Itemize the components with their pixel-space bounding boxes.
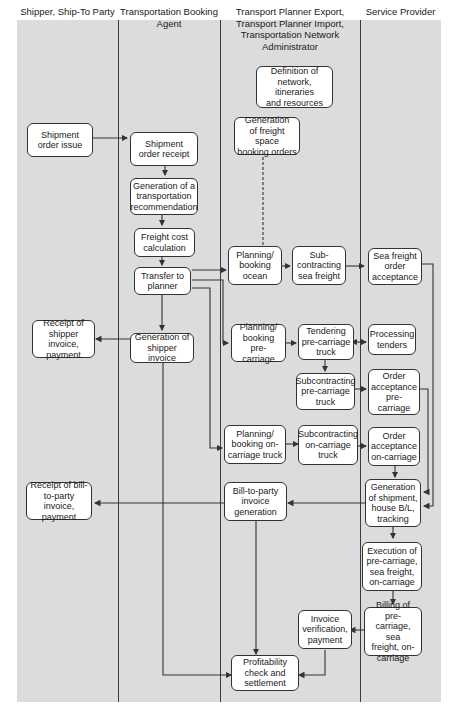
node-generation-transport-rec: Generation of a transportation recommend… bbox=[130, 178, 198, 215]
lane-title-shipper: Shipper, Ship-To Party bbox=[17, 6, 118, 18]
node-subcontracting-on: Subcontracting on-carriage truck bbox=[298, 425, 358, 465]
node-generation-freight-space: Generation of freight space booking orde… bbox=[234, 117, 300, 155]
lane-title-planner: Transport Planner Export, Transport Plan… bbox=[220, 6, 360, 52]
lane-divider-2 bbox=[220, 20, 221, 702]
node-receipt-bill-to-party: Receipt of bill- to-party invoice, payme… bbox=[26, 482, 92, 520]
node-generation-shipment-bl: Generation of shipment, house B/L, track… bbox=[365, 479, 421, 527]
node-generation-shipper-invoice: Generation of shipper invoice bbox=[130, 333, 194, 363]
node-bill-to-party-generation: Bill-to-party invoice generation bbox=[224, 482, 287, 521]
node-order-acceptance-pre: Order acceptance pre-carriage bbox=[368, 369, 420, 415]
node-planning-booking-ocean: Planning/ booking ocean bbox=[228, 246, 282, 285]
lane-divider-1 bbox=[118, 20, 119, 702]
node-sea-freight-acceptance: Sea freight order acceptance bbox=[368, 248, 422, 285]
node-execution-carriage: Execution of pre-carriage, sea freight, … bbox=[362, 542, 422, 591]
node-subcontracting-sea: Sub- contracting sea freight bbox=[292, 246, 346, 285]
node-invoice-verification: Invoice verification, payment bbox=[298, 610, 352, 649]
lane-divider-3 bbox=[360, 20, 361, 702]
node-subcontracting-pre: Subcontracting pre-carriage truck bbox=[296, 373, 355, 410]
node-tendering-pre: Tendering pre-carriage truck bbox=[298, 324, 354, 360]
node-freight-cost-calc: Freight cost calculation bbox=[134, 228, 195, 257]
node-shipment-order-issue: Shipment order issue bbox=[27, 123, 93, 157]
node-planning-booking-on: Planning/ booking on- carriage truck bbox=[224, 425, 286, 464]
lane-title-booking-agent: Transportation Booking Agent bbox=[118, 6, 220, 29]
node-definition-network: Definition of network, itineraries and r… bbox=[256, 66, 333, 108]
node-planning-booking-pre: Planning/ booking pre- carriage bbox=[231, 324, 286, 362]
node-order-acceptance-on: Order acceptance on-carriage bbox=[368, 427, 420, 466]
node-profitability-check: Profitability check and settlement bbox=[231, 655, 299, 691]
node-billing-carriage: Billing of pre- carriage, sea freight, o… bbox=[364, 607, 422, 656]
node-transfer-to-planner: Transfer to planner bbox=[134, 267, 191, 295]
node-processing-tenders: Processing tenders bbox=[368, 324, 416, 355]
node-receipt-shipper-invoice: Receipt of shipper invoice, payment bbox=[32, 320, 95, 358]
lane-title-service-provider: Service Provider bbox=[360, 6, 441, 18]
node-shipment-order-receipt: Shipment order receipt bbox=[130, 132, 198, 166]
